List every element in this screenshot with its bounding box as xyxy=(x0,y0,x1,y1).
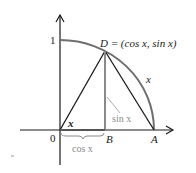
cos-brace xyxy=(61,133,104,139)
point-B-label: B xyxy=(106,133,113,145)
angle-label: x xyxy=(67,117,74,129)
point-D-label: D = (cos x, sin x) xyxy=(99,37,177,50)
segment-OD xyxy=(60,51,105,130)
sin-label: sin x xyxy=(112,113,131,124)
y-tick-one-label: 1 xyxy=(50,34,56,46)
arc-length-label: x xyxy=(145,73,151,85)
point-A-label: A xyxy=(150,133,158,145)
point-D-text: D = (cos x, sin x) xyxy=(99,37,177,50)
cos-label: cos x xyxy=(72,143,93,154)
sin-leader-line xyxy=(107,97,120,113)
unit-circle-diagram: 1 0 D = (cos x, sin x) x x sin x cos x B… xyxy=(0,0,196,173)
origin-label: 0 xyxy=(50,132,56,144)
diagram-canvas: 1 0 D = (cos x, sin x) x x sin x cos x B… xyxy=(0,0,196,173)
